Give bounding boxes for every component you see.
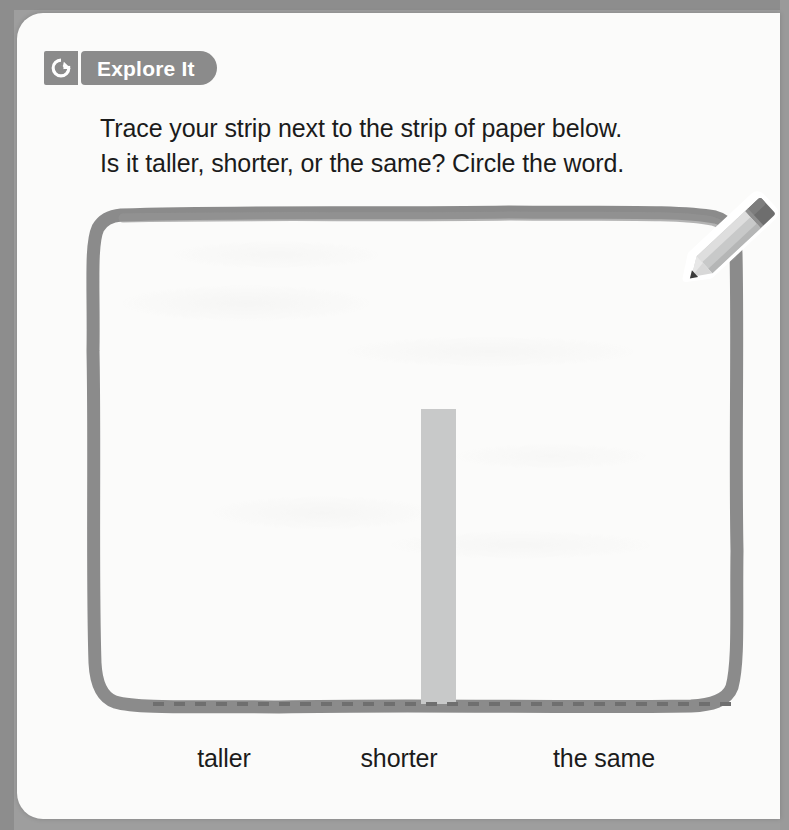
paper-strip (421, 409, 456, 704)
explore-compass-g-icon (44, 51, 78, 85)
work-area-inner[interactable] (97, 219, 727, 714)
instruction-line-2: Is it taller, shorter, or the same? Circ… (100, 146, 720, 181)
explore-it-badge: Explore It (44, 51, 217, 85)
instruction-line-1: Trace your strip next to the strip of pa… (100, 111, 720, 146)
explore-it-label: Explore It (97, 58, 195, 79)
answer-choice-the-same[interactable]: the same (553, 741, 655, 775)
answer-choices: taller shorter the same (79, 741, 749, 781)
paper-card: Explore It Trace your strip next to the … (17, 13, 780, 819)
answer-choice-taller[interactable]: taller (197, 741, 251, 775)
instruction-block: Trace your strip next to the strip of pa… (100, 111, 720, 181)
explore-it-badge-pill: Explore It (81, 51, 217, 85)
pencil-icon (657, 179, 789, 299)
scan-gutter-left (0, 0, 14, 830)
dashed-baseline (153, 702, 737, 706)
work-area-box[interactable] (79, 201, 749, 736)
answer-choice-shorter[interactable]: shorter (360, 741, 437, 775)
scan-gutter-top (0, 0, 780, 10)
